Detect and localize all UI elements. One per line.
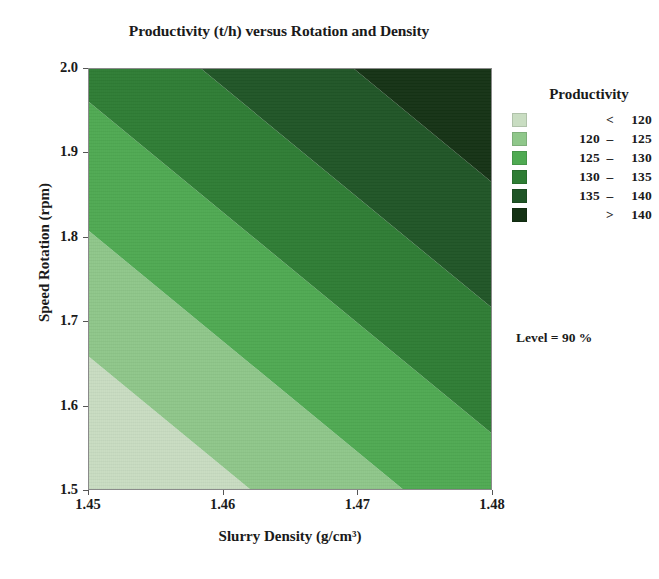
- x-axis-title: Slurry Density (g/cm³): [88, 528, 492, 545]
- legend-item: >140: [512, 205, 652, 224]
- level-annotation: Level = 90 %: [516, 330, 592, 346]
- legend-color-swatch: [512, 170, 527, 184]
- plot-area: [88, 68, 492, 490]
- y-tick-mark: [83, 68, 88, 69]
- legend-range-text: 135–140: [531, 188, 652, 204]
- legend-range-high: 120: [620, 112, 652, 128]
- y-tick-label-wrap: 1.5: [0, 482, 78, 483]
- x-tick-label: 1.45: [58, 497, 118, 512]
- legend-range-text: >140: [531, 207, 652, 223]
- x-tick-mark: [492, 490, 493, 495]
- legend-range-low: 135: [566, 188, 600, 204]
- legend-range-operator: –: [600, 131, 620, 147]
- legend-range-text: <120: [531, 112, 652, 128]
- legend-range-high: 140: [620, 188, 652, 204]
- legend-range-low: 120: [566, 131, 600, 147]
- legend-range-operator: –: [600, 169, 620, 185]
- x-tick-label-wrap: 1.46: [193, 497, 253, 512]
- legend-item: 120–125: [512, 129, 652, 148]
- legend-range-text: 125–130: [531, 150, 652, 166]
- x-tick-label: 1.47: [327, 497, 387, 512]
- y-tick-mark: [83, 152, 88, 153]
- y-tick-mark: [83, 237, 88, 238]
- legend-color-swatch: [512, 189, 527, 203]
- legend-range-high: 140: [620, 207, 652, 223]
- x-tick-mark: [88, 490, 89, 495]
- legend-item: 130–135: [512, 167, 652, 186]
- y-axis-title: Speed Rotation (rpm): [36, 83, 53, 423]
- x-tick-label-wrap: 1.48: [462, 497, 522, 512]
- x-tick-label-wrap: 1.47: [327, 497, 387, 512]
- legend: Productivity <120120–125125–130130–13513…: [512, 86, 652, 224]
- legend-range-operator: –: [600, 188, 620, 204]
- legend-color-swatch: [512, 132, 527, 146]
- legend-range-operator: –: [600, 150, 620, 166]
- y-tick-label: 1.5: [38, 482, 78, 497]
- y-tick-mark: [83, 406, 88, 407]
- legend-item: 125–130: [512, 148, 652, 167]
- y-tick-mark: [83, 321, 88, 322]
- x-tick-label: 1.46: [193, 497, 253, 512]
- contour-bands: [89, 69, 491, 489]
- legend-color-swatch: [512, 151, 527, 165]
- legend-range-text: 130–135: [531, 169, 652, 185]
- x-tick-mark: [223, 490, 224, 495]
- legend-item: 135–140: [512, 186, 652, 205]
- x-tick-label-wrap: 1.45: [58, 497, 118, 512]
- legend-color-swatch: [512, 208, 527, 222]
- legend-range-high: 125: [620, 131, 652, 147]
- legend-item: <120: [512, 110, 652, 129]
- legend-range-text: 120–125: [531, 131, 652, 147]
- legend-color-swatch: [512, 113, 527, 127]
- page-title: Productivity (t/h) versus Rotation and D…: [64, 22, 494, 40]
- legend-range-low: 125: [566, 150, 600, 166]
- legend-range-operator: <: [600, 112, 620, 128]
- legend-title: Productivity: [526, 86, 652, 103]
- legend-rows: <120120–125125–130130–135135–140>140: [512, 110, 652, 224]
- legend-range-low: 130: [566, 169, 600, 185]
- legend-range-high: 130: [620, 150, 652, 166]
- y-tick-label-wrap: 2.0: [0, 60, 78, 61]
- contour-plot-figure: Productivity (t/h) versus Rotation and D…: [0, 0, 659, 579]
- x-tick-mark: [357, 490, 358, 495]
- y-tick-label: 2.0: [38, 60, 78, 75]
- x-tick-label: 1.48: [462, 497, 522, 512]
- legend-range-operator: >: [600, 207, 620, 223]
- legend-range-high: 135: [620, 169, 652, 185]
